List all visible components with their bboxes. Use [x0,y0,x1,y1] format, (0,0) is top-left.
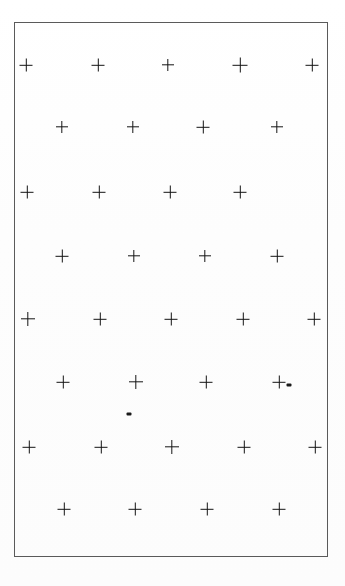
cross-mark-icon [306,59,319,72]
cross-mark-icon [165,313,178,326]
cross-vertical-bar [239,186,240,199]
cross-vertical-bar [61,250,62,263]
cross-vertical-bar [135,375,136,389]
cross-mark-icon [94,313,107,326]
cross-vertical-bar [276,250,277,263]
cross-vertical-bar [314,441,315,454]
cross-mark-icon [129,375,143,389]
cross-vertical-bar [28,441,29,454]
cross-mark-icon [57,376,70,389]
cross-mark-icon [233,58,248,73]
cross-mark-icon [273,376,286,389]
cross-mark-icon [56,250,69,263]
cross-mark-icon [238,441,251,454]
cross-vertical-bar [276,121,277,133]
cross-vertical-bar [243,441,244,454]
cross-mark-icon [308,313,321,326]
figure-canvas [0,0,345,586]
cross-mark-icon [164,186,177,199]
cross-mark-icon [95,441,108,454]
cross-vertical-bar [278,376,279,389]
cross-vertical-bar [242,313,243,326]
cross-vertical-bar [202,121,203,134]
cross-vertical-bar [134,503,135,516]
cross-vertical-bar [278,503,279,516]
cross-vertical-bar [206,503,207,516]
cross-mark-icon [197,121,210,134]
cross-mark-icon [234,186,247,199]
cross-mark-icon [162,59,174,71]
cross-mark-icon [20,59,33,72]
cross-mark-icon [273,503,286,516]
cross-mark-icon [21,186,34,199]
cross-vertical-bar [133,250,134,262]
cross-vertical-bar [170,313,171,326]
cross-vertical-bar [205,376,206,389]
cross-vertical-bar [132,121,133,133]
cross-mark-icon [201,503,214,516]
cross-mark-icon [58,503,71,516]
cross-vertical-bar [26,186,27,199]
cross-vertical-bar [62,376,63,389]
cross-vertical-bar [97,59,98,72]
cross-mark-icon [199,250,211,262]
cross-vertical-bar [27,312,28,326]
cross-vertical-bar [169,186,170,199]
cross-vertical-bar [63,503,64,516]
cross-vertical-bar [204,250,205,262]
cross-mark-icon [271,121,283,133]
ink-speck [287,384,292,387]
cross-mark-icon [271,250,284,263]
cross-vertical-bar [25,59,26,72]
cross-vertical-bar [100,441,101,454]
cross-vertical-bar [98,186,99,199]
frame-rectangle [14,22,328,557]
cross-vertical-bar [61,121,62,133]
cross-vertical-bar [311,59,312,72]
cross-mark-icon [128,250,140,262]
ink-speck [127,413,132,416]
cross-vertical-bar [313,313,314,326]
cross-mark-icon [129,503,142,516]
cross-vertical-bar [167,59,168,71]
cross-vertical-bar [171,440,172,454]
cross-mark-icon [56,121,68,133]
cross-vertical-bar [239,58,240,73]
cross-mark-icon [165,440,179,454]
cross-mark-icon [93,186,106,199]
cross-vertical-bar [99,313,100,326]
cross-mark-icon [200,376,213,389]
cross-mark-icon [127,121,139,133]
cross-mark-icon [237,313,250,326]
cross-mark-icon [92,59,105,72]
cross-mark-icon [23,441,36,454]
cross-mark-icon [21,312,35,326]
cross-mark-icon [309,441,322,454]
